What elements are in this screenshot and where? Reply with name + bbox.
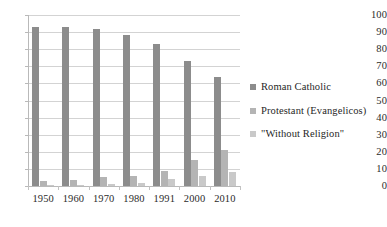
y-axis-tick-mark (25, 66, 28, 67)
y-axis-tick-mark (25, 101, 28, 102)
bar (123, 35, 130, 186)
bar (93, 29, 100, 186)
bar (199, 176, 206, 186)
bar-group (58, 15, 88, 186)
y-axis-tick-mark (25, 118, 28, 119)
bar (184, 61, 191, 186)
x-axis-tick-mark (149, 186, 150, 190)
bar (168, 179, 175, 186)
x-axis-tick-label: 1991 (149, 194, 179, 205)
x-axis-tick-mark (58, 186, 59, 190)
x-axis-tick-label: 2000 (179, 194, 209, 205)
legend-item[interactable]: "Without Religion" (250, 129, 385, 140)
bar-group (28, 15, 58, 186)
x-axis-tick-label: 1980 (119, 194, 149, 205)
bar (130, 176, 137, 186)
y-axis-tick-label: 100 (363, 10, 387, 21)
y-axis-tick-label: 0 (363, 181, 387, 192)
y-axis-tick-mark (25, 32, 28, 33)
chart-legend: Roman CatholicProtestant (Evangelicos)"W… (250, 82, 385, 153)
plot-area (28, 15, 240, 186)
bar (100, 177, 107, 186)
x-axis-tick-mark (240, 186, 241, 190)
x-axis-tick-label: 2010 (210, 194, 240, 205)
y-axis-tick-mark (25, 169, 28, 170)
x-axis-tick-label: 1960 (58, 194, 88, 205)
x-axis-tick-label: 1970 (89, 194, 119, 205)
bar (221, 150, 228, 186)
y-axis-tick-mark (25, 152, 28, 153)
legend-item[interactable]: Roman Catholic (250, 82, 385, 93)
x-axis-tick-mark (89, 186, 90, 190)
legend-swatch-icon (250, 84, 256, 90)
x-axis-tick-mark (210, 186, 211, 190)
y-axis-tick-label: 80 (363, 44, 387, 55)
bar-group (149, 15, 179, 186)
y-axis-tick-label: 70 (363, 61, 387, 72)
y-axis-tick-mark (25, 15, 28, 16)
y-axis-tick-label: 10 (363, 164, 387, 175)
bar-group (119, 15, 149, 186)
legend-label: Protestant (Evangelicos) (261, 106, 366, 117)
bar-chart: 0102030405060708090100 19501960197019801… (0, 0, 387, 227)
legend-swatch-icon (250, 108, 256, 114)
y-axis-line (28, 15, 29, 186)
legend-item[interactable]: Protestant (Evangelicos) (250, 106, 385, 117)
legend-label: "Without Religion" (261, 129, 344, 140)
y-axis-tick-mark (25, 135, 28, 136)
bar-group (179, 15, 209, 186)
bar (32, 27, 39, 186)
legend-swatch-icon (250, 131, 256, 137)
x-axis-tick-mark (119, 186, 120, 190)
bar (191, 160, 198, 186)
x-axis-tick-label: 1950 (28, 194, 58, 205)
bar (214, 77, 221, 186)
x-axis-tick-mark (179, 186, 180, 190)
y-axis-tick-label: 90 (363, 27, 387, 38)
bar (229, 172, 236, 186)
bar (153, 44, 160, 186)
legend-label: Roman Catholic (261, 82, 331, 93)
y-axis-tick-mark (25, 83, 28, 84)
x-axis-tick-mark (28, 186, 29, 190)
bar-group (210, 15, 240, 186)
bar-group (89, 15, 119, 186)
y-axis-tick-mark (25, 49, 28, 50)
bar (161, 171, 168, 186)
bar (62, 27, 69, 186)
